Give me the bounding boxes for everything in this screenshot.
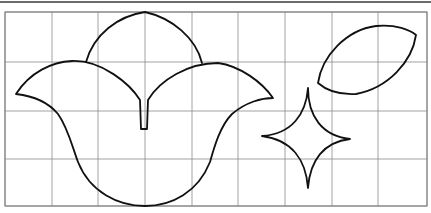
grid-border	[5, 12, 427, 206]
leaf-shape	[318, 26, 416, 95]
grid	[5, 12, 427, 206]
grid-figure	[0, 0, 431, 213]
tulip-top-petal	[86, 12, 202, 63]
tulip-body	[16, 61, 273, 206]
four-point-star	[262, 88, 350, 188]
